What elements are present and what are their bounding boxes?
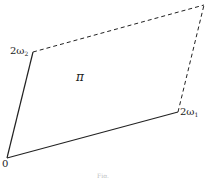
edge-omega1-far [178,5,204,112]
label-omega2: 2ω2 [10,45,28,57]
edge-origin-omega2 [7,52,33,158]
label-origin: 0 [2,158,8,169]
region-label-pi: π [76,70,84,84]
label-origin-text: 0 [2,158,8,169]
label-omega2-sub: 2 [25,50,29,57]
region-label-text: π [76,70,84,84]
edge-omega2-far [33,5,204,52]
label-omega1-sub: 1 [195,111,199,118]
label-omega1-main: 2ω [180,106,195,117]
label-omega1: 2ω1 [180,106,198,118]
label-omega2-main: 2ω [10,45,25,56]
parallelogram-diagram [0,0,206,178]
figure-caption: Fig. [0,172,206,178]
edge-origin-omega1 [7,112,178,158]
